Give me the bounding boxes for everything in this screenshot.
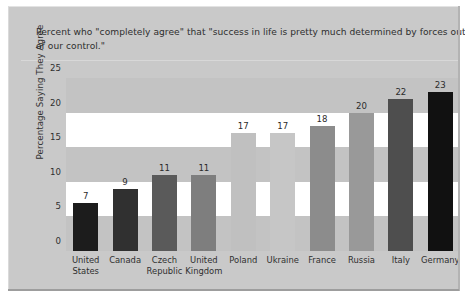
bar[interactable] <box>231 133 256 251</box>
x-axis-tick-label-line: Ukraine <box>261 255 305 266</box>
bar-value-label: 11 <box>159 163 170 173</box>
bar-group[interactable]: 11CzechRepublic <box>145 78 184 251</box>
x-axis-tick-label-line: United <box>182 255 226 266</box>
bar[interactable] <box>152 175 177 251</box>
bar-group[interactable]: 20Russia <box>342 78 381 251</box>
bar-group[interactable]: 9Canada <box>105 78 144 251</box>
x-axis-tick-label: Poland <box>221 255 265 266</box>
chart-title-line-1: Percent who "completely agree" that "suc… <box>36 25 454 39</box>
bar-value-label: 23 <box>435 80 446 90</box>
x-axis-tick-label: CzechRepublic <box>142 255 186 277</box>
bar-value-label: 18 <box>317 114 328 124</box>
panel-bottom-rule <box>8 289 459 291</box>
bar[interactable] <box>73 203 98 251</box>
x-axis-tick-label: UnitedStates <box>64 255 108 277</box>
x-axis-tick-label-line: Italy <box>379 255 423 266</box>
y-axis-tick-label: 0 <box>56 236 61 246</box>
bar-series: 7UnitedStates9Canada11CzechRepublic11Uni… <box>66 78 460 251</box>
x-axis-tick-label-line: Canada <box>103 255 147 266</box>
title-divider <box>21 60 459 61</box>
chart-title: Percent who "completely agree" that "suc… <box>36 25 454 53</box>
bar-value-label: 20 <box>356 101 367 111</box>
bar[interactable] <box>270 133 295 251</box>
x-axis-tick-label-line: States <box>64 266 108 277</box>
x-axis-tick-label: France <box>300 255 344 266</box>
x-axis-tick-label-line: Germany <box>418 255 462 266</box>
bar[interactable] <box>428 92 453 251</box>
x-axis-tick-label-line: France <box>300 255 344 266</box>
bar[interactable] <box>349 113 374 251</box>
bar[interactable] <box>113 189 138 251</box>
y-axis-tick-label: 15 <box>50 132 61 142</box>
bar-group[interactable]: 11UnitedKingdom <box>184 78 223 251</box>
bar-value-label: 17 <box>238 121 249 131</box>
x-axis-tick-label: Germany <box>418 255 462 266</box>
bar-group[interactable]: 7UnitedStates <box>66 78 105 251</box>
x-axis-tick-label-line: Russia <box>339 255 383 266</box>
x-axis-tick-label-line: Poland <box>221 255 265 266</box>
panel-right-edge <box>458 6 460 291</box>
bar-value-label: 17 <box>277 121 288 131</box>
bar-group[interactable]: 17Poland <box>224 78 263 251</box>
chart-figure: Percent who "completely agree" that "suc… <box>0 0 465 302</box>
bar-value-label: 7 <box>83 191 88 201</box>
x-axis-tick-label: Russia <box>339 255 383 266</box>
bar-group[interactable]: 18France <box>302 78 341 251</box>
y-axis-tick-label: 25 <box>50 63 61 73</box>
bar-group[interactable]: 22Italy <box>381 78 420 251</box>
bar-group[interactable]: 17Ukraine <box>263 78 302 251</box>
y-axis-tick-label: 10 <box>50 167 61 177</box>
figure-panel: Percent who "completely agree" that "suc… <box>8 6 459 289</box>
y-axis-tick-label: 20 <box>50 98 61 108</box>
x-axis-tick-label-line: Kingdom <box>182 266 226 277</box>
bar[interactable] <box>310 126 335 251</box>
bar-value-label: 11 <box>198 163 209 173</box>
bar-group[interactable]: 23Germany <box>421 78 460 251</box>
bar-value-label: 22 <box>395 87 406 97</box>
bar[interactable] <box>191 175 216 251</box>
x-axis-tick-label: Italy <box>379 255 423 266</box>
x-axis-tick-label: Canada <box>103 255 147 266</box>
bar-value-label: 9 <box>122 177 127 187</box>
x-axis-tick-label: Ukraine <box>261 255 305 266</box>
x-axis-tick-label-line: Czech <box>142 255 186 266</box>
x-axis-tick-label-line: Republic <box>142 266 186 277</box>
y-axis-label: Percentage Saying They Agree <box>35 7 45 177</box>
plot-area: 0510152025 7UnitedStates9Canada11CzechRe… <box>66 78 460 251</box>
y-axis-tick-label: 5 <box>56 201 61 211</box>
x-axis-tick-label-line: United <box>64 255 108 266</box>
chart-title-line-2: of our control." <box>36 39 454 53</box>
bar[interactable] <box>388 99 413 251</box>
x-axis-tick-label: UnitedKingdom <box>182 255 226 277</box>
